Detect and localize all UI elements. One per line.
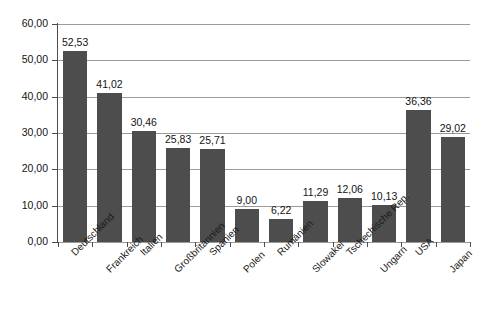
y-tick-label: 0,00	[2, 235, 48, 247]
x-tick-mark	[367, 242, 368, 247]
y-tick-label: 40,00	[2, 90, 48, 102]
y-tick-label: 10,00	[2, 199, 48, 211]
bar	[235, 209, 259, 242]
bar	[406, 110, 430, 242]
bar-value-label: 36,36	[397, 95, 441, 107]
y-tick-mark	[52, 24, 57, 25]
bar	[63, 51, 87, 242]
y-tick-label: 20,00	[2, 162, 48, 174]
x-tick-mark	[264, 242, 265, 247]
x-axis-label: Japan	[447, 248, 474, 275]
y-tick-mark	[52, 60, 57, 61]
bar-value-label: 41,02	[88, 78, 132, 90]
y-tick-label: 30,00	[2, 126, 48, 138]
y-tick-mark	[52, 206, 57, 207]
gridline	[58, 60, 470, 61]
y-tick-mark	[52, 242, 57, 243]
y-tick-mark	[52, 133, 57, 134]
x-tick-mark	[92, 242, 93, 247]
y-tick-mark	[52, 97, 57, 98]
y-tick-label: 60,00	[2, 17, 48, 29]
gridline	[58, 24, 470, 25]
y-tick-mark	[52, 169, 57, 170]
bar-value-label: 10,13	[362, 190, 406, 202]
bar	[441, 137, 465, 242]
x-tick-mark	[298, 242, 299, 247]
bar	[166, 148, 190, 242]
y-tick-label: 50,00	[2, 53, 48, 65]
x-tick-mark	[161, 242, 162, 247]
bar-value-label: 52,53	[53, 36, 97, 48]
x-axis-label: Polen	[241, 249, 267, 275]
bar-value-label: 30,46	[122, 116, 166, 128]
bar-value-label: 25,71	[191, 134, 235, 146]
x-axis-label: Ungarn	[378, 244, 409, 275]
x-tick-mark	[470, 242, 471, 247]
bar-chart: 0,0010,0020,0030,0040,0050,0060,00 Deuts…	[0, 0, 485, 332]
bar-value-label: 29,02	[431, 122, 475, 134]
x-tick-mark	[58, 242, 59, 247]
bar-value-label: 6,22	[259, 204, 303, 216]
bar	[132, 131, 156, 242]
x-axis-label: Slowakei	[310, 239, 346, 275]
